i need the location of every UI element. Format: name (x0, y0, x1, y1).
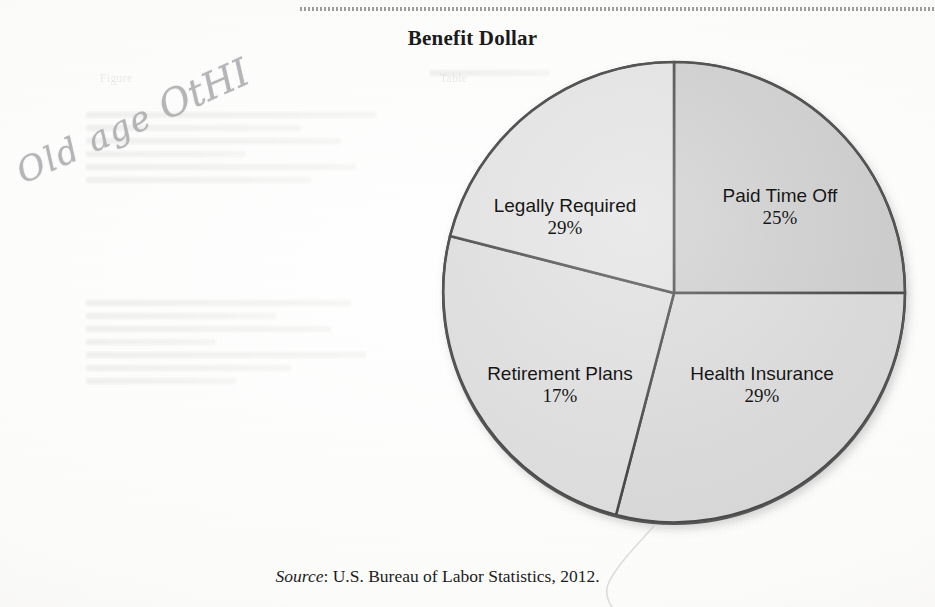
pie-outline (443, 62, 905, 524)
pie-label-value: 29% (466, 217, 664, 239)
pie-label-name: Legally Required (466, 195, 664, 217)
top-dotted-rule (300, 7, 935, 11)
showthrough-ghost-word-1: Figure (100, 72, 132, 84)
pie-label-paid-time-off: Paid Time Off 25% (690, 185, 870, 229)
showthrough-ghost-left-lower (86, 300, 386, 391)
pie-label-value: 29% (662, 385, 862, 407)
pie-label-name: Retirement Plans (460, 363, 660, 385)
pie-label-value: 17% (460, 385, 660, 407)
pie-label-health-insurance: Health Insurance 29% (662, 363, 862, 407)
pie-label-legally-required: Legally Required 29% (466, 195, 664, 239)
pie-label-retirement-plans: Retirement Plans 17% (460, 363, 660, 407)
chart-title-text: Benefit Dollar (408, 26, 537, 51)
pie-label-name: Paid Time Off (690, 185, 870, 207)
pie-label-name: Health Insurance (662, 363, 862, 385)
pie-label-value: 25% (690, 207, 870, 229)
page-title: Benefit Dollar (0, 26, 935, 51)
source-text: : U.S. Bureau of Labor Statistics, 2012. (323, 566, 599, 586)
pie-chart-svg (432, 50, 924, 542)
pie-chart (432, 50, 924, 542)
source-caption: Source: U.S. Bureau of Labor Statistics,… (0, 566, 935, 587)
source-label: Source (275, 566, 323, 586)
